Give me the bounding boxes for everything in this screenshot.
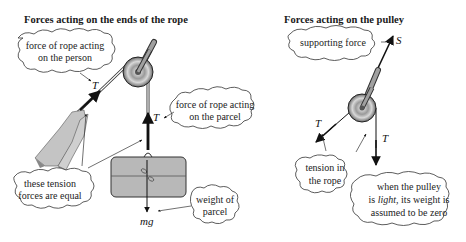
bubble-equal-tension: these tension forces are equal bbox=[14, 168, 94, 209]
bubble-weight: weight of parcel bbox=[190, 185, 239, 224]
light-line2: is light, its weight is bbox=[369, 194, 450, 205]
pointer-weight bbox=[158, 206, 191, 211]
pulley-wheel-right bbox=[348, 88, 376, 122]
svg-text:force of rope acting: force of rope acting bbox=[176, 99, 255, 110]
support-arrow bbox=[378, 36, 393, 68]
svg-text:assumed to be zero: assumed to be zero bbox=[371, 207, 447, 218]
bubble-light-pulley: when the pulley is light, its weight is … bbox=[350, 172, 449, 226]
weight-symbol: mg bbox=[140, 215, 154, 227]
svg-text:these tension: these tension bbox=[24, 178, 76, 189]
svg-text:the rope: the rope bbox=[309, 175, 342, 186]
bubble-person-force: force of rope acting on the person bbox=[18, 29, 115, 73]
svg-text:when the pulley: when the pulley bbox=[377, 181, 441, 192]
diagram-canvas: Forces acting on the ends of the rope T … bbox=[0, 0, 466, 242]
parcel-illustration bbox=[111, 153, 186, 197]
bubble-tension: tension in the rope bbox=[295, 155, 347, 193]
tension-arrow-person bbox=[80, 91, 100, 110]
svg-text:tension in: tension in bbox=[305, 162, 344, 173]
pointer-person-force bbox=[80, 73, 91, 81]
left-panel-title: Forces acting on the ends of the rope bbox=[24, 14, 188, 25]
svg-text:force of rope acting: force of rope acting bbox=[26, 40, 105, 51]
svg-text:parcel: parcel bbox=[203, 206, 228, 217]
svg-text:weight of: weight of bbox=[196, 194, 235, 205]
tension-symbol-down: T bbox=[382, 132, 389, 144]
bubble-support: supporting force bbox=[288, 26, 375, 61]
svg-text:forces are equal: forces are equal bbox=[18, 190, 82, 201]
pulley-wheel-left bbox=[123, 50, 153, 87]
pointer-tension-right bbox=[356, 134, 366, 152]
tension-symbol-left: T bbox=[315, 117, 322, 129]
hands-illustration bbox=[35, 110, 88, 172]
svg-text:on the person: on the person bbox=[38, 52, 92, 63]
svg-text:supporting force: supporting force bbox=[300, 37, 366, 48]
pointer-tension-left bbox=[322, 134, 326, 151]
right-panel-title: Forces acting on the pulley bbox=[284, 14, 405, 25]
bubble-parcel-force: force of rope acting on the parcel bbox=[170, 87, 255, 129]
tension-symbol-parcel: T bbox=[153, 111, 160, 123]
support-symbol: S bbox=[396, 34, 402, 46]
svg-text:on the parcel: on the parcel bbox=[189, 111, 241, 122]
tension-symbol-person: T bbox=[92, 79, 99, 91]
